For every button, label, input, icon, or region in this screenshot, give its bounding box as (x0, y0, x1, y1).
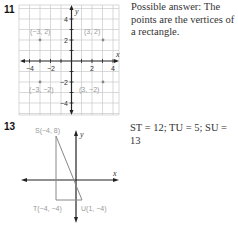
arrow-down-icon (70, 110, 74, 115)
x-tick-label: −2 (47, 65, 55, 72)
coordinate-graph-13: y x S(−4, 8) T(−4, −4) U(1, −4) (21, 127, 119, 223)
point (39, 39, 42, 42)
point (102, 39, 105, 42)
arrow-down-icon (74, 217, 78, 223)
y-axis-label: y (74, 7, 79, 16)
arrow-right-icon (113, 178, 119, 182)
arrow-up-icon (70, 5, 74, 10)
point-label: (−3, −2) (29, 86, 54, 94)
point-label-u: U(1, −4) (81, 205, 106, 213)
x-tick-label: −4 (26, 65, 34, 72)
answer-text-13: ST = 12; TU = 5; SU = 13 (130, 122, 238, 147)
y-tick-label: −4 (60, 100, 68, 107)
y-tick-label: 4 (64, 16, 68, 23)
point-label-s: S(−4, 8) (35, 127, 60, 135)
point-label: (3, −2) (79, 86, 99, 94)
point (39, 81, 42, 84)
point (102, 81, 105, 84)
arrow-left-icon (21, 178, 27, 182)
y-axis-label: y (79, 130, 84, 139)
point-label: (3, 2) (84, 28, 100, 36)
x-tick-label: 4 (111, 65, 115, 72)
y-tick-label: −2 (60, 79, 68, 86)
x-axis-label: x (112, 169, 117, 178)
arrow-up-icon (74, 130, 78, 136)
arrow-right-icon (114, 59, 119, 63)
x-tick-label: 2 (90, 65, 94, 72)
point-label: (−3, 2) (30, 28, 50, 36)
arrow-left-icon (20, 59, 25, 63)
y-tick-label: 2 (64, 37, 68, 44)
problem-number-13: 13 (4, 121, 15, 132)
triangle-stu (56, 136, 82, 200)
coordinate-graph-11: −4 −2 2 4 4 2 −2 −4 y x (−3, 2) (3, 2) (… (0, 0, 238, 225)
grid-lines (19, 5, 119, 115)
point-label-t: T(−4, −4) (33, 205, 62, 213)
x-axis-label: x (115, 50, 120, 59)
